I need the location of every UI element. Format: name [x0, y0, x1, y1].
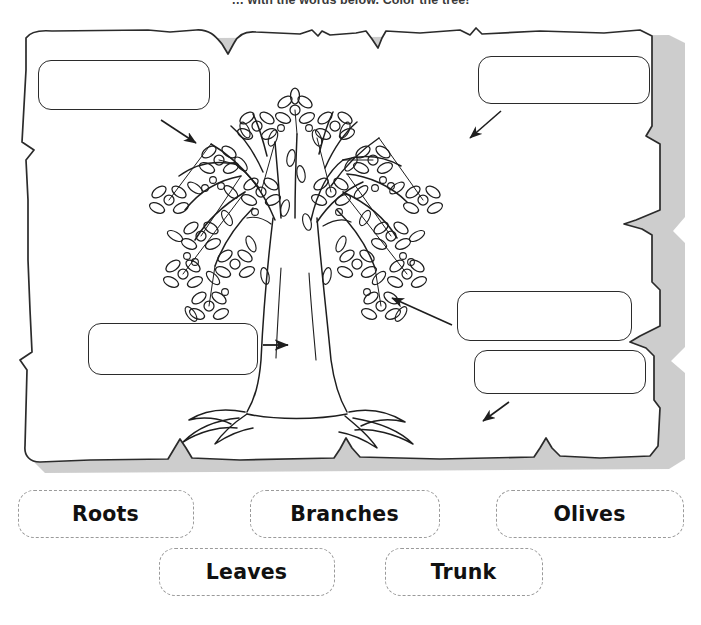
answer-box-trunk[interactable]: [88, 323, 258, 375]
word-chip-olives[interactable]: Olives: [496, 490, 684, 538]
word-chip-label: Roots: [72, 504, 139, 525]
word-bank-row-1: Roots Branches Olives: [0, 486, 701, 538]
word-chip-roots[interactable]: Roots: [18, 490, 194, 538]
answer-box-leaves[interactable]: [38, 60, 210, 110]
word-chip-label: Leaves: [206, 562, 287, 583]
word-bank-row-2: Leaves Trunk: [0, 538, 701, 596]
word-chip-label: Olives: [553, 504, 625, 525]
worksheet-sheet: [0, 10, 701, 490]
word-chip-label: Trunk: [431, 562, 497, 583]
answer-box-branches[interactable]: [457, 291, 632, 341]
tree-roots: [183, 410, 413, 448]
word-chip-leaves[interactable]: Leaves: [159, 548, 335, 596]
word-chip-label: Branches: [290, 504, 399, 525]
worksheet-instruction: … with the words below. Color the tree!: [0, 0, 701, 9]
answer-box-roots[interactable]: [474, 350, 646, 394]
olive-tree-illustration: [95, 68, 495, 458]
word-chip-branches[interactable]: Branches: [250, 490, 440, 538]
tree-branches-left: [179, 114, 267, 266]
tree-canopy-foliage: [148, 88, 444, 323]
word-bank: Roots Branches Olives Leaves Trunk: [0, 486, 701, 625]
tree-branches-right: [319, 112, 407, 268]
tree-trunk: [247, 218, 347, 412]
answer-box-olives[interactable]: [478, 56, 650, 104]
word-chip-trunk[interactable]: Trunk: [385, 548, 543, 596]
